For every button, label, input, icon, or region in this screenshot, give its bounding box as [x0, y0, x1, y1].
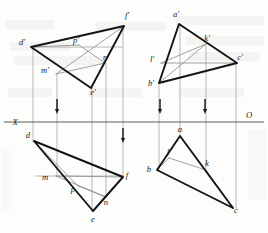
arrow-left-upper-head [55, 109, 59, 114]
axis-label-x: X [11, 117, 18, 127]
ground-line-group: X O [4, 110, 264, 127]
descriptive-geometry-figure: X O d'f'e'm'n'p'dfemnpa'c'b'k'l'abckl [0, 0, 268, 233]
projection-drawing-canvas: X O d'f'e'm'n'p'dfemnpa'c'b'k'l'abckl [0, 0, 268, 233]
point-label-f-prime: f' [125, 10, 129, 20]
point-label-e: e [91, 214, 95, 224]
point-label-b: b [147, 164, 152, 174]
point-label-f: f [126, 170, 130, 180]
point-label-c: c [234, 205, 238, 215]
arrow-right-inner-head [158, 109, 162, 114]
point-label-a: a [178, 124, 182, 134]
point-label-k-prime: k' [204, 33, 210, 43]
point-label-m: m [42, 172, 48, 182]
axis-label-o: O [246, 110, 252, 120]
point-label-k: k [205, 158, 209, 168]
arrow-right-outer-head [203, 109, 207, 114]
point-label-c-prime: c' [237, 52, 243, 62]
point-label-n-prime: n' [103, 52, 109, 62]
arrow-left-lower-head [121, 138, 125, 143]
point-label-e-prime: e' [90, 87, 96, 97]
point-label-a-prime: a' [173, 9, 179, 19]
point-label-d: d [26, 130, 31, 140]
direction-arrow-group [55, 99, 207, 143]
point-label-l-prime: l' [150, 54, 154, 64]
point-label-n: n [104, 197, 108, 207]
point-label-p: p [70, 184, 76, 194]
point-label-d-prime: d' [19, 37, 25, 47]
point-label-m-prime: m' [41, 65, 49, 75]
point-label-p-prime: p' [72, 35, 79, 45]
point-label-b-prime: b' [148, 78, 154, 88]
